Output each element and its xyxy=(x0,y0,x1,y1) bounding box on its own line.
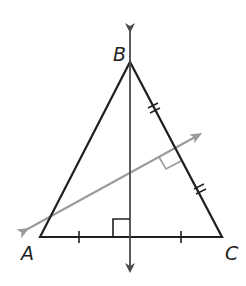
triangle-abc xyxy=(40,62,222,237)
right-angle-marker-bc xyxy=(159,157,181,169)
vertex-label-a: A xyxy=(19,242,34,264)
vertex-label-c: C xyxy=(225,242,239,264)
vertex-label-b: B xyxy=(113,43,126,65)
triangle-diagram: B A C xyxy=(0,0,246,286)
right-angle-marker-ac xyxy=(113,219,130,237)
